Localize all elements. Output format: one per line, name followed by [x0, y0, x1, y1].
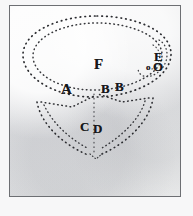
label-A: A: [61, 82, 72, 97]
diagram-linework: [10, 6, 179, 195]
label-B-right: B: [115, 80, 124, 93]
funnel-right-outer-path: [102, 98, 153, 154]
plate-frame: A B B C D E F O o: [9, 5, 181, 197]
label-o-small: o: [146, 63, 151, 72]
funnel-apex-path: [90, 153, 103, 159]
label-D: D: [93, 122, 102, 135]
plate-inner: A B B C D E F O o: [10, 6, 180, 196]
label-O-capital: O: [153, 60, 163, 73]
left-junction-branch-path: [41, 96, 94, 107]
figure-root: A B B C D E F O o: [0, 0, 193, 216]
funnel-right-inner-path: [102, 101, 145, 148]
label-C: C: [80, 120, 89, 133]
label-F: F: [94, 57, 103, 72]
label-B-left: B: [101, 82, 110, 95]
